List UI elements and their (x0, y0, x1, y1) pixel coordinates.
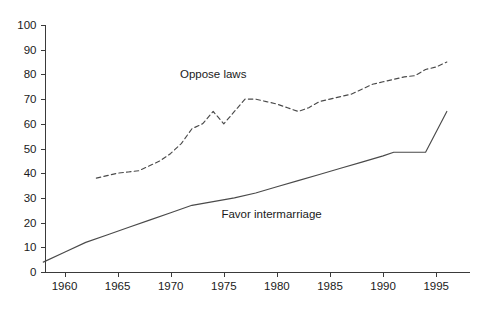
y-tick-label: 70 (24, 93, 37, 105)
y-tick-label: 80 (24, 68, 37, 80)
y-tick-label: 100 (17, 19, 36, 31)
x-tick-label: 1995 (423, 280, 449, 292)
y-tick-label: 20 (24, 217, 37, 229)
y-tick-label: 0 (30, 266, 36, 278)
y-tick-label: 60 (24, 118, 37, 130)
x-tick-label: 1975 (211, 280, 237, 292)
y-tick-label: 90 (24, 44, 37, 56)
series-line-oppose-laws (96, 62, 446, 178)
y-tick-label: 10 (24, 241, 37, 253)
series-label-favor-intermarriage: Favor intermarriage (221, 208, 321, 220)
line-chart: 0102030405060708090100 19601965197019751… (0, 0, 477, 315)
series-annotations: Oppose lawsFavor intermarriage (180, 68, 322, 220)
x-tick-label: 1990 (370, 280, 396, 292)
x-axis-tick-labels: 19601965197019751980198519901995 (52, 280, 449, 292)
series-label-oppose-laws: Oppose laws (180, 68, 247, 80)
y-tick-label: 30 (24, 192, 37, 204)
x-tick-label: 1985 (317, 280, 343, 292)
x-tick-label: 1980 (264, 280, 290, 292)
x-tick-label: 1970 (158, 280, 184, 292)
y-tick-label: 40 (24, 167, 37, 179)
x-tick-label: 1960 (52, 280, 78, 292)
series-line-favor-intermarriage (43, 111, 447, 262)
y-axis-tick-labels: 0102030405060708090100 (17, 19, 36, 278)
chart-canvas: 0102030405060708090100 19601965197019751… (0, 0, 477, 315)
y-tick-label: 50 (24, 143, 37, 155)
x-tick-label: 1965 (105, 280, 131, 292)
series-lines (43, 62, 447, 262)
y-axis-ticks (41, 26, 46, 273)
